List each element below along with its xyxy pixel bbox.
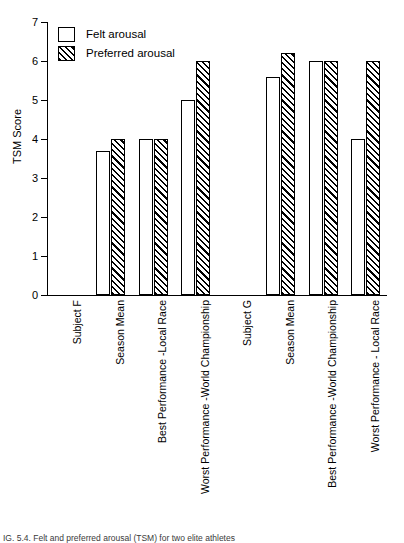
figure-caption: IG. 5.4. Felt and preferred arousal (TSM… xyxy=(3,533,403,543)
y-axis-tick-label: 6 xyxy=(2,56,38,67)
x-axis-category-label: Subject G xyxy=(242,300,253,346)
legend-swatch-hatched xyxy=(58,46,75,61)
y-axis-tick-label: 3 xyxy=(2,173,38,184)
bar xyxy=(266,77,280,295)
x-axis-category-label: Best Performance -World Championship xyxy=(327,300,338,488)
bar xyxy=(196,61,210,295)
x-axis-category-label: Worst Performance - Local Race xyxy=(370,300,381,452)
y-axis-tick-labels: 01234567 xyxy=(0,0,38,543)
y-axis-tick-label: 5 xyxy=(2,95,38,106)
y-axis-tick-label: 1 xyxy=(2,251,38,262)
x-axis-category-label: Subject F xyxy=(72,300,83,344)
figure: TSM Score 01234567 Subject FSeason MeanB… xyxy=(0,0,404,543)
y-axis-tick-label: 0 xyxy=(2,290,38,301)
bar xyxy=(96,151,110,295)
bar xyxy=(281,53,295,295)
x-axis-category-label: Best Performance -Local Race xyxy=(157,300,168,443)
bar xyxy=(366,61,380,295)
bar xyxy=(309,61,323,295)
legend-item: Felt arousal xyxy=(58,25,218,44)
bar xyxy=(111,139,125,295)
legend-label: Felt arousal xyxy=(86,29,146,41)
y-axis-tick-label: 4 xyxy=(2,134,38,145)
y-axis-tick-label: 2 xyxy=(2,212,38,223)
x-axis-category-label: Season Mean xyxy=(115,300,126,365)
legend-swatch-empty xyxy=(58,27,75,42)
x-axis-line xyxy=(47,295,387,296)
bar xyxy=(181,100,195,295)
bar xyxy=(351,139,365,295)
legend-item: Preferred arousal xyxy=(58,44,218,63)
legend-label: Preferred arousal xyxy=(86,48,175,60)
legend: Felt arousalPreferred arousal xyxy=(58,25,218,63)
bar xyxy=(154,139,168,295)
x-axis-category-label: Season Mean xyxy=(285,300,296,365)
y-axis-tick-label: 7 xyxy=(2,17,38,28)
bar xyxy=(139,139,153,295)
bar xyxy=(324,61,338,295)
x-axis-category-label: Worst Performance -World Championship xyxy=(200,300,211,494)
